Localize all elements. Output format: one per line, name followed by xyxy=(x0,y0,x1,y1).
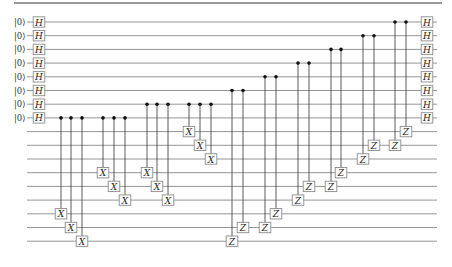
gate-label: H xyxy=(422,113,431,123)
gate-label: H xyxy=(34,72,43,82)
controlled-z-gate: Z xyxy=(292,61,304,205)
target-x-gate: X xyxy=(55,209,67,220)
hadamard-gates: HHHHHHHHHHHHHHHH xyxy=(33,17,433,124)
target-x-gate: X xyxy=(151,181,163,192)
initial-state-label: |0⟩ xyxy=(14,99,26,110)
target-x-gate: X xyxy=(97,168,109,179)
control-dot-icon xyxy=(361,34,365,38)
initial-state-label: |0⟩ xyxy=(14,17,26,28)
control-dot-icon xyxy=(187,102,191,106)
target-x-gate: X xyxy=(108,181,120,192)
controlled-z-gate: Z xyxy=(400,20,412,137)
hadamard-gate-initial: H xyxy=(33,99,45,110)
target-x-gate: X xyxy=(162,195,174,206)
gate-label: Z xyxy=(359,155,367,165)
gate-label: H xyxy=(34,86,43,96)
controlled-z-gate: Z xyxy=(226,89,238,247)
controlled-x-gate: X xyxy=(205,102,217,164)
gate-label: Z xyxy=(370,141,378,151)
hadamard-gate-final: H xyxy=(421,44,433,55)
control-dot-icon xyxy=(241,89,245,93)
target-z-gate: Z xyxy=(237,222,249,233)
target-z-gate: Z xyxy=(389,140,401,151)
gate-label: Z xyxy=(228,237,236,247)
gate-label: X xyxy=(78,237,86,247)
gate-label: H xyxy=(34,31,43,41)
gate-label: X xyxy=(99,168,107,178)
gate-label: H xyxy=(422,86,431,96)
gate-label: X xyxy=(121,196,129,206)
target-z-gate: Z xyxy=(303,181,315,192)
initial-state-label: |0⟩ xyxy=(14,44,26,55)
gate-label: X xyxy=(67,223,75,233)
control-dot-icon xyxy=(404,20,408,24)
target-z-gate: Z xyxy=(259,222,271,233)
hadamard-gate-final: H xyxy=(421,85,433,96)
target-x-gate: X xyxy=(205,154,217,165)
controlled-z-gate: Z xyxy=(270,75,282,219)
gate-label: H xyxy=(422,18,431,28)
hadamard-gate-final: H xyxy=(421,58,433,69)
target-x-gate: X xyxy=(194,140,206,151)
control-dot-icon xyxy=(80,116,84,120)
gate-label: H xyxy=(422,45,431,55)
target-z-gate: Z xyxy=(357,154,369,165)
gate-label: X xyxy=(185,127,193,137)
initial-state-label: |0⟩ xyxy=(14,72,26,83)
controlled-gates: XXXXXXXXXXXXZZZZZZZZZZZZ xyxy=(55,20,412,247)
gate-label: Z xyxy=(261,223,269,233)
controlled-z-gate: Z xyxy=(368,34,380,151)
hadamard-gate-initial: H xyxy=(33,44,45,55)
gate-label: X xyxy=(143,168,151,178)
gate-label: Z xyxy=(305,182,313,192)
control-dot-icon xyxy=(329,48,333,52)
control-dot-icon xyxy=(307,61,311,65)
hadamard-gate-initial: H xyxy=(33,85,45,96)
controlled-x-gate: X xyxy=(183,102,195,137)
gate-label: Z xyxy=(239,223,247,233)
control-dot-icon xyxy=(59,116,63,120)
control-dot-icon xyxy=(166,102,170,106)
controlled-x-gate: X xyxy=(151,102,163,192)
target-z-gate: Z xyxy=(292,195,304,206)
initial-state-label: |0⟩ xyxy=(14,113,26,124)
control-dot-icon xyxy=(123,116,127,120)
hadamard-gate-initial: H xyxy=(33,31,45,42)
gate-label: X xyxy=(153,182,161,192)
initial-state-label: |0⟩ xyxy=(14,58,26,69)
control-dot-icon xyxy=(372,34,376,38)
gate-label: H xyxy=(422,100,431,110)
gate-label: Z xyxy=(391,141,399,151)
gate-label: X xyxy=(57,209,65,219)
controlled-x-gate: X xyxy=(108,116,120,192)
gate-label: H xyxy=(422,72,431,82)
target-z-gate: Z xyxy=(335,168,347,179)
controlled-z-gate: Z xyxy=(237,89,249,233)
hadamard-gate-final: H xyxy=(421,17,433,28)
control-dot-icon xyxy=(69,116,73,120)
hadamard-gate-final: H xyxy=(421,99,433,110)
gate-label: H xyxy=(34,45,43,55)
controlled-x-gate: X xyxy=(141,102,153,178)
control-dot-icon xyxy=(274,75,278,79)
control-dot-icon xyxy=(145,102,149,106)
gate-label: Z xyxy=(327,182,335,192)
hadamard-gate-final: H xyxy=(421,113,433,124)
target-z-gate: Z xyxy=(226,236,238,247)
target-z-gate: Z xyxy=(270,209,282,220)
gate-label: Z xyxy=(272,209,280,219)
gate-label: X xyxy=(207,155,215,165)
target-x-gate: X xyxy=(119,195,131,206)
gate-label: H xyxy=(422,31,431,41)
target-x-gate: X xyxy=(76,236,88,247)
gate-label: H xyxy=(34,113,43,123)
controlled-x-gate: X xyxy=(194,102,206,150)
controlled-x-gate: X xyxy=(119,116,131,206)
gate-label: X xyxy=(110,182,118,192)
control-dot-icon xyxy=(112,116,116,120)
control-dot-icon xyxy=(339,48,343,52)
gate-label: X xyxy=(196,141,204,151)
gate-label: H xyxy=(34,18,43,28)
target-x-gate: X xyxy=(141,168,153,179)
target-x-gate: X xyxy=(65,222,77,233)
